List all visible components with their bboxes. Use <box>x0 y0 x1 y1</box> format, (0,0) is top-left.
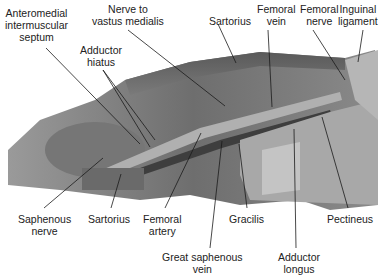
label-great-saphenous-vein: Great saphenous vein <box>162 251 243 275</box>
label-femoral-artery: Femoral artery <box>143 213 182 237</box>
label-adductor-longus: Adductor longus <box>278 251 320 275</box>
label-adductor-hiatus: Adductor hiatus <box>80 44 122 68</box>
label-anteromedial-intermuscular-septum: Anteromedial intermuscular septum <box>5 7 68 43</box>
label-inguinal-ligament: Inguinal ligament <box>338 3 378 27</box>
label-femoral-vein: Femoral vein <box>257 3 296 27</box>
label-saphenous-nerve: Saphenous nerve <box>18 213 71 237</box>
label-nerve-to-vastus-medialis: Nerve to vastus medialis <box>92 3 164 27</box>
label-pectineus: Pectineus <box>327 213 373 225</box>
label-sartorius-top: Sartorius <box>209 15 251 27</box>
anatomy-figure: Anteromedial intermuscular septum Nerve … <box>0 0 387 277</box>
label-sartorius-bottom: Sartorius <box>88 213 130 225</box>
label-femoral-nerve: Femoral nerve <box>300 3 339 27</box>
label-gracilis: Gracilis <box>229 213 264 225</box>
